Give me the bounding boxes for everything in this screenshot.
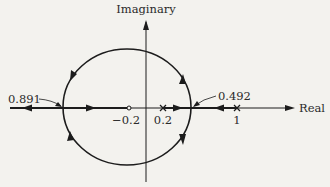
imaginary-axis-arrow-icon	[143, 20, 149, 30]
locus-arrow-icon	[67, 131, 74, 141]
locus-arrow-right-icon	[173, 105, 183, 112]
imaginary-axis-label: Imaginary	[116, 2, 176, 16]
real-axis-label: Real	[299, 101, 325, 115]
zero-marker-icon	[127, 106, 131, 110]
locus-arrow-right-icon	[86, 105, 96, 112]
real-axis-locus	[10, 105, 237, 112]
locus-arrow-left-icon	[214, 105, 224, 112]
imaginary-axis	[143, 20, 149, 182]
real-axis-arrow-icon	[285, 105, 295, 111]
zero-label: −0.2	[112, 113, 140, 127]
leader-arrow-icon	[55, 102, 62, 107]
breakpoint-label-right: 0.492	[218, 89, 251, 103]
breakpoint-label-left: 0.891	[8, 92, 41, 106]
leader-arrow-icon	[193, 101, 200, 107]
root-locus-diagram: Imaginary Real −0.2 0.2 1	[0, 0, 330, 187]
pole-label: 1	[233, 113, 240, 127]
pole-label: 0.2	[154, 113, 172, 127]
